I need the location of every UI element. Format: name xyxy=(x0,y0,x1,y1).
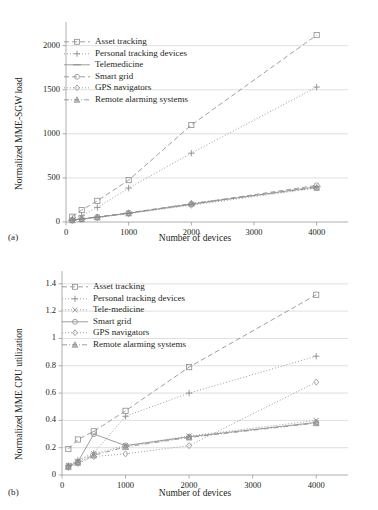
x-tick-label: 3000 xyxy=(233,480,273,490)
legend-marker-square-icon xyxy=(60,281,90,293)
y-tick-label: 0 xyxy=(26,216,60,226)
y-tick-label: 1.4 xyxy=(22,278,56,288)
legend-label: Remote alarming systems xyxy=(90,339,186,351)
y-tick-label: 0.4 xyxy=(22,414,56,424)
legend-marker-triangle-icon xyxy=(60,339,90,351)
legend-item[interactable]: GPS navigators xyxy=(60,327,186,339)
legend-item[interactable]: Remote alarming systems xyxy=(60,339,186,351)
y-tick-label: 2000 xyxy=(26,40,60,50)
x-tick-label: 3000 xyxy=(234,227,274,237)
legend-label: Smart grid xyxy=(92,71,133,83)
y-tick-label: 500 xyxy=(26,172,60,182)
legend-label: Asset tracking xyxy=(92,36,147,48)
legend-label: Personal tracking devices xyxy=(92,48,187,60)
panel-label-b: (b) xyxy=(8,487,19,497)
x-tick-label: 2000 xyxy=(171,227,211,237)
x-tick-label: 4000 xyxy=(297,227,337,237)
x-tick-label: 0 xyxy=(42,480,82,490)
legend-marker-diamond-icon xyxy=(60,327,90,339)
chart-panel-a: Normalized MME-SGW load Number of device… xyxy=(0,0,378,255)
legend-marker-circle-icon xyxy=(60,316,90,328)
y-tick-label: 0.8 xyxy=(22,360,56,370)
legend-item[interactable]: Tele-medicine xyxy=(60,304,186,316)
y-tick-label: 1000 xyxy=(26,128,60,138)
legend-item[interactable]: Personal tracking devices xyxy=(60,293,186,305)
x-tick-label: 2000 xyxy=(169,480,209,490)
y-tick-label: 1500 xyxy=(26,84,60,94)
legend-label: Asset tracking xyxy=(90,281,145,293)
legend-marker-triangle-icon xyxy=(62,94,92,106)
legend-marker-diamond-icon xyxy=(62,82,92,94)
x-tick-label: 0 xyxy=(46,227,86,237)
legend-label: Smart grid xyxy=(90,316,131,328)
legend-marker-square-icon xyxy=(62,36,92,48)
legend-item[interactable]: Smart grid xyxy=(62,71,188,83)
legend-item[interactable]: Telemedicine xyxy=(62,59,188,71)
legend-item[interactable]: Asset tracking xyxy=(60,281,186,293)
legend-marker-line-icon xyxy=(62,59,92,71)
legend-marker-circle-icon xyxy=(62,71,92,83)
x-tick-label: 1000 xyxy=(106,480,146,490)
y-axis-title-a: Normalized MME-SGW load xyxy=(14,77,24,190)
legend-item[interactable]: Smart grid xyxy=(60,316,186,328)
y-tick-label: 0.6 xyxy=(22,387,56,397)
figure: Normalized MME-SGW load Number of device… xyxy=(0,0,378,510)
y-tick-label: 1 xyxy=(22,332,56,342)
x-tick-label: 1000 xyxy=(109,227,149,237)
legend-b: Asset trackingPersonal tracking devicesT… xyxy=(60,281,186,351)
legend-label: Tele-medicine xyxy=(90,304,144,316)
legend-label: Personal tracking devices xyxy=(90,293,185,305)
y-tick-label: 1.2 xyxy=(22,305,56,315)
legend-marker-plus-icon xyxy=(60,293,90,305)
x-tick-label: 4000 xyxy=(296,480,336,490)
chart-panel-b: Normalized MME CPU utilization Number of… xyxy=(0,255,378,510)
y-tick-label: 0 xyxy=(22,469,56,479)
legend-item[interactable]: Asset tracking xyxy=(62,36,188,48)
panel-label-a: (a) xyxy=(8,232,18,242)
legend-label: GPS navigators xyxy=(90,327,149,339)
legend-a: Asset trackingPersonal tracking devicesT… xyxy=(62,36,188,106)
legend-item[interactable]: Remote alarming systems xyxy=(62,94,188,106)
legend-item[interactable]: GPS navigators xyxy=(62,82,188,94)
legend-label: Telemedicine xyxy=(92,59,143,71)
legend-marker-cross-icon xyxy=(60,304,90,316)
legend-item[interactable]: Personal tracking devices xyxy=(62,48,188,60)
y-tick-label: 0.2 xyxy=(22,442,56,452)
legend-label: GPS navigators xyxy=(92,82,151,94)
plot-area-b xyxy=(0,255,378,510)
legend-marker-plus-icon xyxy=(62,48,92,60)
legend-label: Remote alarming systems xyxy=(92,94,188,106)
